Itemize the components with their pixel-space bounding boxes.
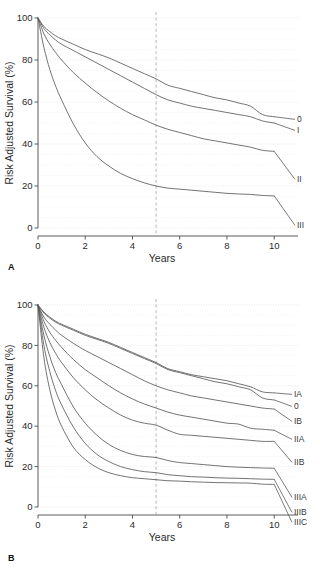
survival-curves-figure: 0204060801000246810YearsRisk Adjusted Su… [0,0,320,573]
curve-label-leader [274,468,292,497]
panel-a-chart: 0204060801000246810YearsRisk Adjusted Su… [0,0,320,290]
y-tick-label: 60 [22,380,33,391]
curve-label-leader [274,430,292,439]
curve-label: II [297,174,302,184]
panel-a-letter: A [8,262,15,272]
curve-label-leader [274,196,295,226]
y-tick-label: 0 [27,501,32,512]
curve-label: I [297,125,299,135]
y-tick-label: 0 [27,222,32,233]
curve-label: IIB [294,457,305,467]
panel-b-chart: 0204060801000246810YearsRisk Adjusted Su… [0,285,320,573]
curve-label-leader [274,484,292,522]
curve-label-leader [274,393,292,395]
x-axis-title: Years [149,531,175,543]
curve-label-leader [274,479,292,512]
panel-b-letter: B [8,553,15,563]
x-tick-label: 8 [224,519,229,530]
y-tick-label: 40 [22,138,33,149]
curve-label-leader [274,400,292,406]
x-tick-label: 0 [35,519,40,530]
x-tick-label: 4 [130,240,135,251]
x-tick-label: 2 [83,240,88,251]
y-tick-label: 80 [22,340,33,351]
curve-label: 0 [297,114,302,124]
y-tick-label: 80 [22,54,33,65]
curve-label-leader [274,123,295,130]
x-tick-label: 8 [224,240,229,251]
panel-a: 0204060801000246810YearsRisk Adjusted Su… [0,0,320,290]
curve-label: IIA [294,434,305,444]
curve-label: IB [294,416,302,426]
curve-label: III [297,220,304,230]
x-tick-label: 6 [177,519,182,530]
x-tick-label: 6 [177,240,182,251]
curve-label-leader [274,151,295,179]
y-tick-label: 40 [22,420,33,431]
curve-label-leader [274,441,292,462]
x-tick-label: 10 [269,519,280,530]
curve-label: IIIC [294,517,307,527]
y-tick-label: 60 [22,96,33,107]
x-tick-label: 10 [269,240,280,251]
x-axis-title: Years [149,252,175,264]
y-tick-label: 20 [22,461,33,472]
curve-label: IIIB [294,507,307,517]
curve-label: 0 [294,401,299,411]
curve-label: IA [294,389,302,399]
y-tick-label: 20 [22,180,33,191]
panel-b: 0204060801000246810YearsRisk Adjusted Su… [0,285,320,573]
x-tick-label: 4 [130,519,135,530]
y-axis-title: Risk Adjusted Survival (%) [3,61,15,184]
curve-label-leader [274,409,292,421]
y-tick-label: 100 [17,12,33,23]
x-tick-label: 2 [83,519,88,530]
curve-label: IIIA [294,492,307,502]
y-tick-label: 100 [17,299,33,310]
x-tick-label: 0 [35,240,40,251]
curve-label-leader [274,117,295,120]
y-axis-title: Risk Adjusted Survival (%) [3,344,15,467]
